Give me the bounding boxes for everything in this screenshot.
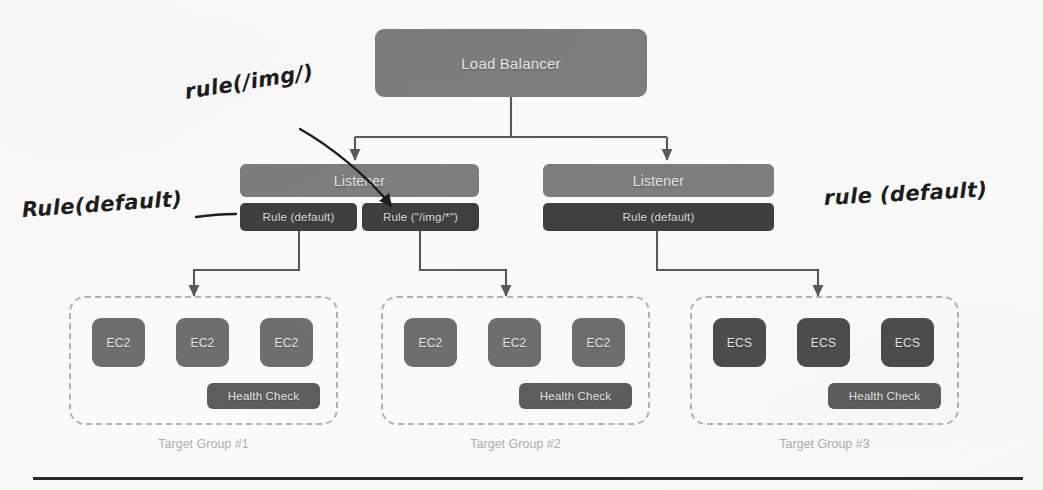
target-label-tg1-1: EC2 <box>107 336 131 350</box>
rule-node-listener1-default: Rule (default) <box>240 203 357 231</box>
target-group-label-3: Target Group #3 <box>690 437 959 451</box>
health-check-node-tg3: Health Check <box>828 383 941 409</box>
listener-label-2: Listener <box>633 173 684 189</box>
rule-label-listener1-default: Rule (default) <box>263 211 335 223</box>
health-check-label-tg2: Health Check <box>540 390 611 402</box>
health-check-node-tg2: Health Check <box>519 383 632 409</box>
rule-label-listener2-default: Rule (default) <box>623 211 695 223</box>
target-node-tg3-2: ECS <box>797 318 850 367</box>
target-label-tg2-3: EC2 <box>587 336 611 350</box>
connector-rule3-to-target-group-3 <box>657 231 818 296</box>
bottom-divider-line <box>33 477 1023 480</box>
load-balancer-node: Load Balancer <box>375 29 647 97</box>
listener-node-1: Listener <box>240 164 479 197</box>
listener-label-1: Listener <box>334 173 385 189</box>
target-label-tg3-1: ECS <box>727 336 752 350</box>
target-group-label-1: Target Group #1 <box>69 437 338 451</box>
health-check-label-tg1: Health Check <box>228 390 299 402</box>
target-node-tg3-3: ECS <box>881 318 934 367</box>
load-balancer-label: Load Balancer <box>461 55 560 72</box>
target-label-tg1-2: EC2 <box>191 336 215 350</box>
target-node-tg2-2: EC2 <box>488 318 541 367</box>
health-check-label-tg3: Health Check <box>849 390 920 402</box>
diagram-canvas: Load Balancer Listener Rule (default) Ru… <box>0 0 1043 490</box>
target-label-tg1-3: EC2 <box>275 336 299 350</box>
rule-label-listener1-img: Rule ("/img/*") <box>383 211 458 223</box>
rule-node-listener2-default: Rule (default) <box>543 203 774 231</box>
target-node-tg2-3: EC2 <box>572 318 625 367</box>
listener-node-2: Listener <box>543 164 774 197</box>
connector-rule2-to-target-group-2 <box>420 231 506 296</box>
health-check-node-tg1: Health Check <box>207 383 320 409</box>
target-label-tg3-2: ECS <box>811 336 836 350</box>
target-node-tg1-1: EC2 <box>92 318 145 367</box>
target-node-tg1-3: EC2 <box>260 318 313 367</box>
rule-node-listener1-img: Rule ("/img/*") <box>362 203 479 231</box>
target-group-label-2: Target Group #2 <box>381 437 650 451</box>
target-node-tg3-1: ECS <box>713 318 766 367</box>
target-node-tg1-2: EC2 <box>176 318 229 367</box>
target-label-tg3-3: ECS <box>895 336 920 350</box>
target-node-tg2-1: EC2 <box>404 318 457 367</box>
target-label-tg2-1: EC2 <box>419 336 443 350</box>
connector-rule1-to-target-group-1 <box>194 231 299 296</box>
target-label-tg2-2: EC2 <box>503 336 527 350</box>
